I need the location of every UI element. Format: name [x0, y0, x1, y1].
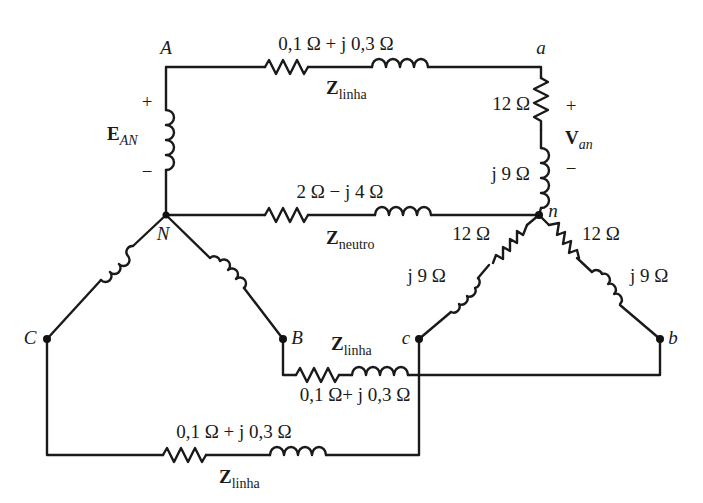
- node-c-dot: [415, 335, 423, 343]
- neutral-impedance: 2 Ω − j 4 Ω: [297, 181, 384, 202]
- load-b-resistance: 12 Ω: [582, 223, 620, 244]
- neutral-wire: [166, 207, 539, 222]
- bottom-line-z-label: Zlinha: [219, 466, 260, 491]
- inductor-icon: [592, 270, 622, 304]
- node-label-C: C: [24, 327, 37, 348]
- resistor-icon: [265, 208, 308, 222]
- top-line-z-label: Zlinha: [326, 77, 367, 102]
- inductor-icon: [451, 278, 480, 313]
- source-plus-sign: +: [142, 91, 153, 112]
- resistor-icon: [163, 448, 206, 462]
- inductor-icon: [352, 367, 408, 375]
- load-c-reactance: j 9 Ω: [407, 265, 446, 286]
- node-B-dot: [279, 335, 287, 343]
- circuit-diagram: A a N n C B c b + − EAN + − Van 0,1 Ω + …: [0, 0, 703, 503]
- source-phase-c: [47, 215, 166, 339]
- bottom-line-impedance: 0,1 Ω + j 0,3 Ω: [176, 421, 291, 442]
- neutral-z-label: Zneutro: [326, 227, 374, 252]
- middle-line-z-label: Zlinha: [331, 333, 372, 358]
- load-a-reactance: j 9 Ω: [491, 163, 530, 184]
- top-line-impedance: 0,1 Ω + j 0,3 Ω: [278, 33, 393, 54]
- source-minus-sign: −: [142, 161, 153, 182]
- source-coil-icon: [166, 110, 174, 170]
- middle-line-impedance: 0,1 Ω+ j 0,3 Ω: [300, 384, 411, 405]
- node-label-n: n: [548, 200, 558, 221]
- load-c-resistance: 12 Ω: [452, 223, 490, 244]
- node-label-c: c: [402, 327, 411, 348]
- resistor-icon: [265, 60, 308, 74]
- node-N-dot: [163, 212, 170, 219]
- node-n-dot: [535, 211, 543, 219]
- load-voltage-label: Van: [565, 127, 593, 152]
- node-label-B: B: [291, 327, 303, 348]
- inductor-icon: [101, 246, 133, 282]
- load-phase-a: [534, 78, 549, 215]
- load-plus-sign: +: [566, 95, 577, 116]
- node-label-A: A: [158, 37, 172, 58]
- load-minus-sign: −: [566, 158, 577, 179]
- resistor-icon: [296, 368, 339, 382]
- source-phase-b: [166, 215, 283, 339]
- load-b-reactance: j 9 Ω: [629, 265, 668, 286]
- node-label-b: b: [668, 327, 678, 348]
- node-b-dot: [656, 335, 664, 343]
- node-label-a: a: [536, 37, 546, 58]
- inductor-icon: [541, 148, 549, 208]
- inductor-icon: [270, 447, 326, 455]
- node-C-dot: [43, 335, 51, 343]
- resistor-icon: [493, 225, 527, 263]
- resistor-icon: [534, 78, 548, 130]
- load-a-resistance: 12 Ω: [492, 93, 530, 114]
- node-label-N: N: [156, 223, 171, 244]
- inductor-icon: [372, 59, 428, 67]
- source-voltage-label: EAN: [107, 123, 138, 148]
- inductor-icon: [210, 256, 246, 288]
- inductor-icon: [375, 207, 431, 215]
- resistor-icon: [549, 223, 579, 258]
